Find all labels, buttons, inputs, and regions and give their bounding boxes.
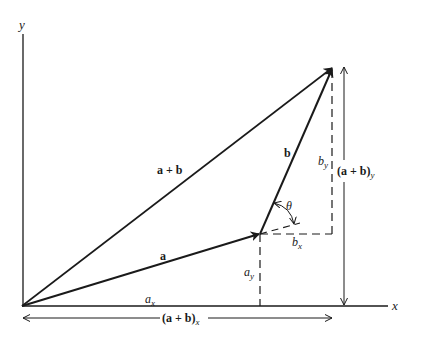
sum-x-label: (a + b)x (162, 311, 200, 327)
a-y-label: ay (244, 265, 254, 281)
vector-a (22, 234, 259, 306)
vector-b-label: b (284, 146, 291, 160)
a-extension-dashed-line (260, 223, 300, 234)
vector-a-label: a (160, 249, 166, 263)
b-x-label: bx (292, 235, 302, 251)
theta-angle: θ (274, 199, 294, 224)
x-axis-label: x (391, 298, 398, 313)
vector-sum-label: a + b (157, 163, 183, 177)
sum-y-label: (a + b)y (337, 164, 375, 180)
vector-a-plus-b (22, 68, 332, 306)
theta-label: θ (286, 199, 292, 213)
component-guides (260, 70, 332, 306)
y-axis-label: y (17, 17, 25, 32)
a-x-label: ax (145, 292, 155, 308)
vector-addition-diagram: y x θ a b a + b ax ay bx by (a + b)y (a … (0, 0, 422, 342)
b-y-label: by (318, 154, 328, 170)
vectors (22, 68, 332, 306)
vector-b (260, 69, 332, 234)
resultant-components (23, 67, 344, 318)
